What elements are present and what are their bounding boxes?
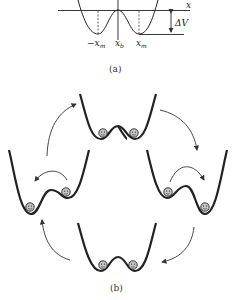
well-curve-bottom bbox=[78, 223, 156, 271]
cycle-arrow-left-to-top bbox=[47, 104, 76, 156]
ball-icon bbox=[62, 188, 70, 196]
tick-neg-xm: −xm bbox=[87, 38, 106, 49]
cycle-arrow-top-to-right bbox=[160, 110, 197, 150]
cycle-arrow-right-to-bottom bbox=[162, 227, 194, 262]
panel-left bbox=[9, 150, 89, 214]
ball-icon bbox=[99, 129, 107, 137]
hop-arrow-left bbox=[35, 171, 67, 181]
ball-icon bbox=[26, 203, 34, 211]
well-curve-right bbox=[147, 150, 227, 214]
ball-icon bbox=[129, 261, 137, 269]
ball-icon bbox=[164, 188, 172, 196]
figure-a-double-well-plot: ΔV x −xm xb xm (a) bbox=[58, 0, 191, 74]
well-curve-left bbox=[9, 150, 89, 214]
panel-top bbox=[80, 94, 156, 139]
ball-icon bbox=[130, 129, 138, 137]
ball-icon bbox=[201, 203, 209, 211]
delta-v-label: ΔV bbox=[174, 18, 189, 28]
hop-arrow-right bbox=[170, 167, 204, 182]
ball-icon bbox=[99, 261, 107, 269]
caption-b: (b) bbox=[110, 283, 123, 293]
tick-xm: xm bbox=[136, 38, 147, 49]
figure-canvas: ΔV x −xm xb xm (a) bbox=[0, 0, 232, 300]
cycle-arrow-bottom-to-left bbox=[42, 220, 70, 260]
x-axis-label: x bbox=[186, 0, 191, 10]
caption-a: (a) bbox=[109, 64, 121, 74]
tick-xb: xb bbox=[115, 38, 124, 49]
panel-bottom bbox=[78, 223, 156, 271]
well-curve-top bbox=[80, 94, 156, 139]
panel-right bbox=[147, 150, 227, 214]
figure-b-cycle-diagram: (b) bbox=[9, 94, 227, 293]
